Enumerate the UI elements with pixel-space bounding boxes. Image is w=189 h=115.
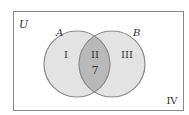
region-i-label: I [64,49,68,60]
region-iii-label: III [121,49,133,60]
universe-label: U [19,18,29,31]
set-a-label: A [55,27,63,38]
set-b-label: B [132,27,140,38]
venn-diagram: U A B I II 7 III IV [0,0,189,115]
intersection-value: 7 [92,64,99,77]
region-iv-label: IV [166,95,178,106]
region-ii-label: II [91,49,99,60]
